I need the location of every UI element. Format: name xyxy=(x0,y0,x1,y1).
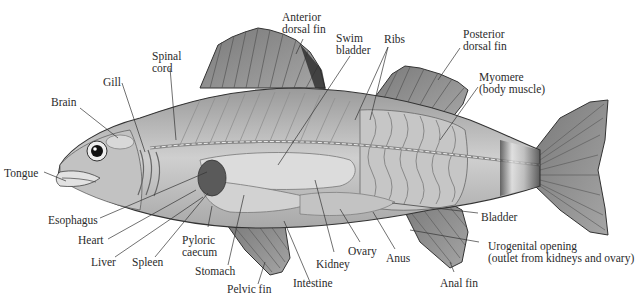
label-kidney: Kidney xyxy=(316,258,350,270)
label-urogenital-opening: Urogenital opening(outlet from kidneys a… xyxy=(488,240,634,264)
label-anus: Anus xyxy=(386,252,410,264)
label-posterior-dorsal-fin: Posteriordorsal fin xyxy=(463,28,507,52)
label-pelvic-fin: Pelvic fin xyxy=(227,283,271,295)
fish-anatomy-diagram: Anteriordorsal fin Swimbladder Ribs Post… xyxy=(0,0,638,302)
label-ribs: Ribs xyxy=(384,33,405,45)
label-pyloric-caecum: Pyloriccaecum xyxy=(182,234,217,258)
label-gill: Gill xyxy=(103,76,121,88)
anterior-dorsal-fin xyxy=(200,28,326,90)
caudal-fin xyxy=(535,100,608,235)
label-spleen: Spleen xyxy=(132,256,163,268)
label-heart: Heart xyxy=(78,234,104,246)
label-spinal-cord: Spinalcord xyxy=(152,50,181,74)
label-anal-fin: Anal fin xyxy=(440,277,478,289)
label-brain: Brain xyxy=(51,96,77,108)
label-esophagus: Esophagus xyxy=(48,214,98,226)
label-bladder: Bladder xyxy=(481,211,517,223)
label-myomere: Myomere(body muscle) xyxy=(479,71,545,95)
fish-body xyxy=(56,88,540,228)
label-stomach: Stomach xyxy=(195,265,235,277)
label-liver: Liver xyxy=(91,256,116,268)
label-anterior-dorsal-fin: Anteriordorsal fin xyxy=(282,11,326,35)
label-intestine: Intestine xyxy=(293,277,333,289)
label-swim-bladder: Swimbladder xyxy=(336,32,370,56)
label-tongue: Tongue xyxy=(4,167,38,179)
label-ovary: Ovary xyxy=(348,245,377,257)
